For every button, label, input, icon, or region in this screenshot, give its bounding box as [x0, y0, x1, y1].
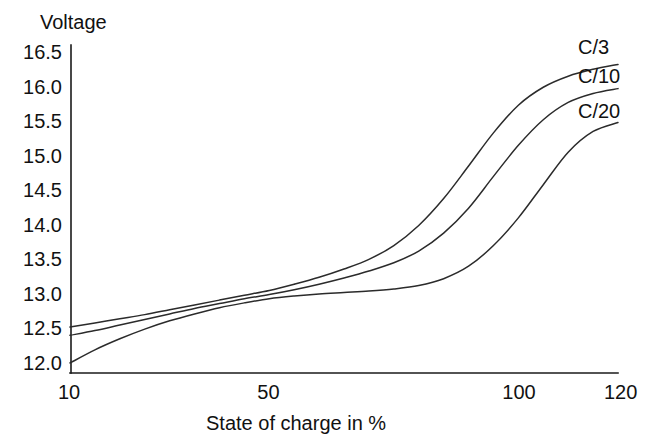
series-curves — [70, 64, 618, 363]
y-tick-label: 13.0 — [23, 283, 62, 305]
series-label-c-10: C/10 — [578, 65, 620, 87]
y-axis-tick-labels: 12.012.513.013.514.014.515.015.516.016.5 — [23, 41, 62, 374]
y-tick-label: 16.5 — [23, 41, 62, 63]
y-tick-label: 15.5 — [23, 110, 62, 132]
y-tick-label: 13.5 — [23, 248, 62, 270]
x-tick-label: 50 — [257, 381, 279, 403]
y-tick-label: 14.0 — [23, 214, 62, 236]
voltage-state-of-charge-chart: Voltage 12.012.513.013.514.014.515.015.5… — [0, 0, 651, 443]
y-tick-label: 15.0 — [23, 145, 62, 167]
chart-plot-area: Voltage 12.012.513.013.514.014.515.015.5… — [0, 0, 651, 443]
series-label-c-3: C/3 — [578, 36, 609, 58]
x-tick-label: 100 — [502, 381, 535, 403]
x-axis-tick-labels: 1050100120 — [58, 381, 637, 403]
series-curve-c-10 — [70, 89, 618, 336]
y-tick-label: 12.5 — [23, 317, 62, 339]
x-axis-title: State of charge in % — [206, 412, 386, 434]
series-labels: C/3C/10C/20 — [578, 36, 620, 122]
y-axis-title: Voltage — [40, 11, 107, 33]
x-tick-label: 10 — [58, 381, 80, 403]
y-tick-label: 16.0 — [23, 76, 62, 98]
series-curve-c-20 — [70, 122, 618, 363]
series-label-c-20: C/20 — [578, 100, 620, 122]
y-tick-label: 14.5 — [23, 179, 62, 201]
x-tick-label: 120 — [604, 381, 637, 403]
y-tick-label: 12.0 — [23, 352, 62, 374]
